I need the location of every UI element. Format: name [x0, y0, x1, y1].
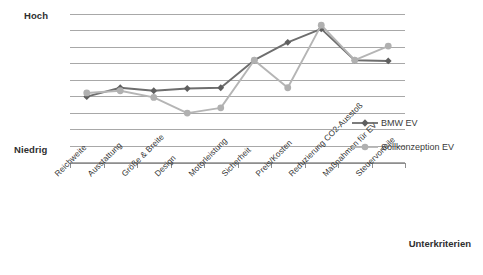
legend-marker-diamond-icon [352, 118, 378, 128]
legend-item-sollkonzeption-ev[interactable]: Sollkonzeption EV [352, 142, 454, 152]
legend-item-bmw-ev[interactable]: BMW EV [352, 118, 418, 128]
legend-marker-circle-icon [352, 142, 378, 152]
data-point-marker [150, 87, 157, 94]
x-axis-tick [204, 163, 205, 168]
series-line-sollkonzeption-ev [87, 25, 389, 113]
y-axis-low-label: Niedrig [14, 144, 47, 155]
data-point-marker [117, 87, 124, 94]
data-point-marker [184, 85, 191, 92]
legend-label-sollkonzeption-ev: Sollkonzeption EV [381, 143, 454, 152]
x-axis-tick [70, 163, 71, 168]
data-point-marker [385, 58, 392, 65]
x-axis-tick [271, 163, 272, 168]
x-axis-tick [171, 163, 172, 168]
data-point-marker [150, 94, 157, 101]
x-axis-tick [338, 163, 339, 168]
x-axis-tick [104, 163, 105, 168]
x-axis-tick [372, 163, 373, 168]
data-point-marker [385, 43, 392, 50]
data-point-marker [318, 22, 325, 29]
data-point-marker [83, 90, 90, 97]
data-point-marker [351, 57, 358, 64]
series-line-bmw-ev [87, 29, 389, 97]
x-axis-tick [305, 163, 306, 168]
data-point-marker [217, 104, 224, 111]
x-axis-title: Unterkriterien [409, 238, 471, 249]
plot-area [70, 14, 405, 163]
series-layer [70, 14, 405, 163]
data-point-marker [251, 57, 258, 64]
y-axis-high-label: Hoch [24, 10, 48, 21]
x-axis-ticks [70, 163, 405, 168]
x-axis-tick [137, 163, 138, 168]
x-axis-tick [405, 163, 406, 168]
data-point-marker [284, 84, 291, 91]
x-axis-tick [238, 163, 239, 168]
chart-container: Hoch Niedrig ReichweiteAusstattungGröße … [0, 0, 483, 275]
data-point-marker [184, 110, 191, 117]
legend-label-bmw-ev: BMW EV [381, 119, 418, 128]
data-point-marker [284, 39, 291, 46]
